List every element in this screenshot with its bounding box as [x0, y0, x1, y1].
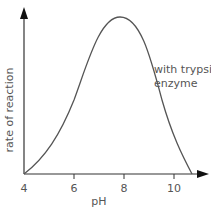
trypsin-curve	[24, 17, 192, 174]
x-axis-arrow-icon	[197, 170, 209, 178]
x-tick-label-4: 4	[21, 182, 28, 195]
y-axis-label: rate of reaction	[3, 68, 16, 153]
x-tick-label-6: 6	[71, 182, 78, 195]
x-tick-label-8: 8	[121, 182, 128, 195]
curve-annotation-line2: enzyme	[154, 77, 198, 90]
curve-annotation-line1: with trypsin	[154, 63, 211, 76]
x-tick-label-10: 10	[167, 182, 181, 195]
y-axis-arrow-icon	[20, 7, 28, 19]
x-axis-label: pH	[91, 195, 106, 208]
chart: 4 6 8 10 pH rate of reaction with trypsi…	[0, 0, 211, 210]
